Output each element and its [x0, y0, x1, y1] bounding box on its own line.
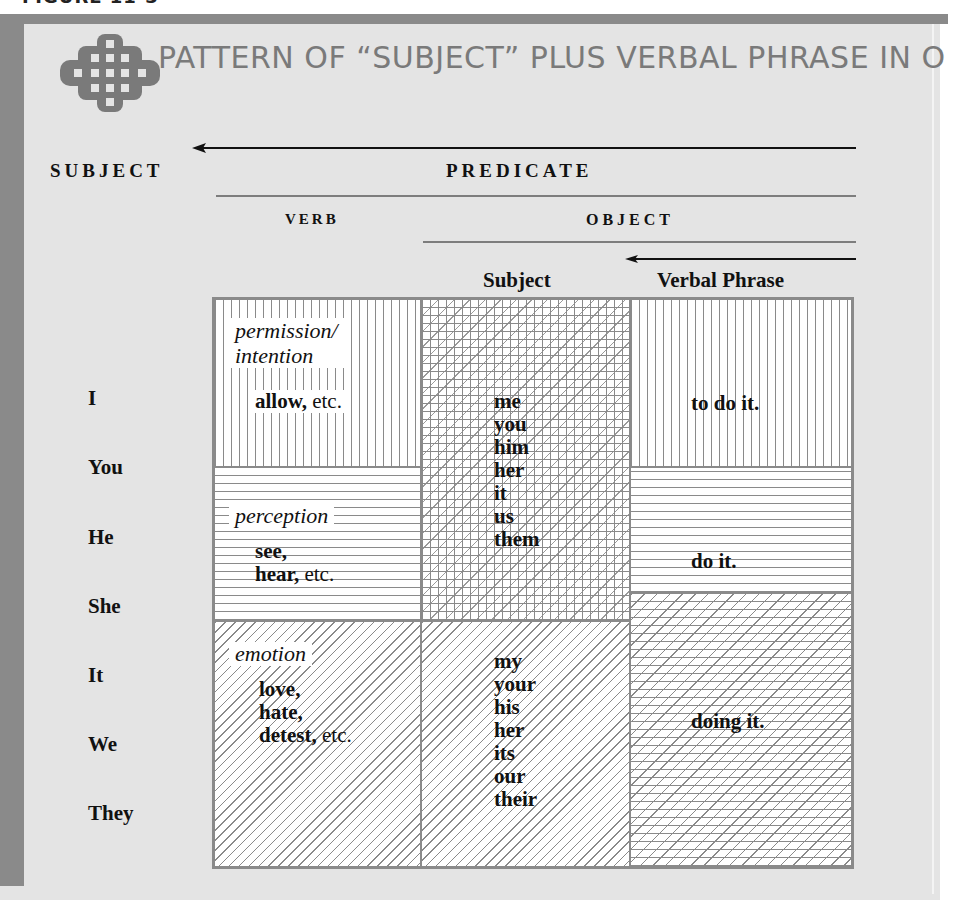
verbs-permission: allow, etc. — [253, 390, 344, 413]
possessive-pronoun-list: my your his her its our their — [494, 650, 537, 811]
pronoun-it: It — [88, 663, 103, 688]
pronoun-she: She — [88, 594, 121, 619]
cell-gerund-phrase: doing it. — [630, 593, 852, 867]
left-border-bar — [0, 14, 24, 886]
phrase-to-do-it: to do it. — [691, 392, 759, 415]
cell-possessive-pronouns: my your his her its our their — [421, 621, 630, 867]
category-permission-label: permission/intention — [229, 318, 344, 368]
figure-title: PATTERN OF “SUBJECT” PLUS VERBAL PHRASE … — [158, 40, 946, 75]
pronoun-he: He — [88, 525, 114, 550]
verbal-phrase-header: Verbal Phrase — [657, 268, 784, 293]
cell-emotion: emotion love, hate, detest, etc. — [214, 621, 421, 867]
cell-perception: perception see, hear, etc. — [214, 467, 421, 621]
top-border-bar — [0, 14, 948, 24]
phrase-doing-it: doing it. — [691, 710, 765, 733]
pronoun-we: We — [88, 732, 117, 757]
predicate-header: PREDICATE — [446, 160, 593, 182]
category-perception-label: perception — [229, 504, 334, 528]
object-header: OBJECT — [586, 211, 674, 229]
figure-caption-clipped: FIGURE 11-3 — [22, 0, 159, 6]
object-rule — [423, 241, 856, 243]
verbs-emotion: love, hate, detest, etc. — [259, 678, 352, 747]
cell-infinitive-phrase: to do it. — [630, 299, 852, 467]
category-emotion-label: emotion — [229, 642, 312, 666]
objective-pronoun-list: me you him her it us them — [494, 390, 540, 551]
pattern-grid: permission/intention allow, etc. percept… — [212, 297, 854, 869]
celtic-lattice-diamond-icon — [60, 34, 160, 112]
pronoun-you: You — [88, 455, 123, 480]
cell-objective-pronouns: me you him her it us them — [421, 299, 630, 621]
pronoun-i: I — [88, 386, 96, 411]
cell-bare-infinitive-phrase: do it. — [630, 467, 852, 593]
verb-header: VERB — [285, 211, 339, 228]
phrase-do-it: do it. — [691, 550, 737, 573]
object-subject-header: Subject — [483, 268, 551, 293]
predicate-to-subject-arrow-icon — [192, 141, 856, 155]
cell-permission: permission/intention allow, etc. — [214, 299, 421, 467]
verbs-perception: see, hear, etc. — [255, 540, 334, 586]
right-edge-line — [932, 24, 934, 894]
predicate-rule — [216, 195, 856, 197]
verbal-phrase-to-subject-arrow-icon — [625, 253, 856, 265]
pronoun-they: They — [88, 801, 134, 826]
subject-header: SUBJECT — [50, 160, 164, 182]
